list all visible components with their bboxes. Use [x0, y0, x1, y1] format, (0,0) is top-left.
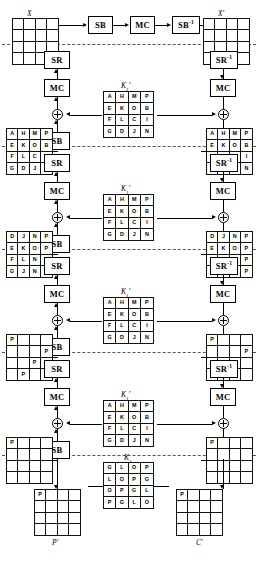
matrix-cell: O: [129, 309, 141, 320]
matrix-cell: [69, 513, 80, 524]
matrix-cell: M: [129, 298, 141, 309]
op-box-mc-L2[interactable]: MC: [44, 182, 70, 200]
state-matrix-right-4: P: [206, 437, 253, 484]
op-box-mc-R4[interactable]: MC: [210, 388, 236, 406]
matrix-cell: [41, 472, 52, 483]
matrix-cell: L: [116, 218, 128, 229]
matrix-cell: P: [207, 335, 218, 346]
arrowhead-into-xor-up-L3: [54, 326, 58, 330]
matrix-cell: N: [141, 332, 153, 343]
matrix-cell: [207, 472, 218, 483]
matrix-cell: E: [207, 140, 218, 151]
matrix-cell: [7, 472, 18, 483]
matrix-cell: D: [116, 435, 128, 446]
op-label: SR: [51, 262, 62, 271]
op-box-sb-inverse-top[interactable]: SB-1: [172, 16, 200, 34]
matrix-cell: [58, 501, 69, 512]
op-label: SB: [52, 343, 63, 352]
wire-state-l1-tap: [53, 151, 58, 152]
arrowhead-into-sr-L2: [54, 172, 58, 176]
xor-node-L2: [52, 212, 63, 223]
op-label: SB-1: [178, 20, 194, 29]
matrix-cell: E: [7, 243, 18, 254]
matrix-cell: K: [18, 140, 29, 151]
matrix-cell: N: [141, 435, 153, 446]
matrix-cell: L: [116, 424, 128, 435]
matrix-cell: [188, 501, 199, 512]
op-box-mc-L3[interactable]: MC: [44, 285, 70, 303]
op-label: MC: [216, 393, 231, 402]
wire-state-r3-tap: [201, 357, 206, 358]
matrix-cell: L: [141, 486, 153, 497]
matrix-cell: L: [18, 152, 29, 163]
op-label: SR-1: [216, 158, 232, 167]
matrix-cell: [36, 19, 47, 30]
wire-key2-to-xor-right: [157, 218, 212, 219]
xor-node-R3: [218, 315, 229, 326]
matrix-cell: [41, 461, 52, 472]
matrix-cell: [238, 30, 249, 41]
matrix-cell: M: [129, 195, 141, 206]
matrix-cell: P: [141, 298, 153, 309]
op-box-mc-top[interactable]: MC: [130, 16, 155, 34]
op-box-sr-L4[interactable]: SR: [44, 360, 70, 378]
matrix-cell: [7, 358, 18, 369]
op-label: MC: [50, 187, 65, 196]
wire-key1-to-xor-left: [70, 115, 102, 116]
matrix-cell: [41, 335, 52, 346]
op-box-mc-R2[interactable]: MC: [210, 182, 236, 200]
op-box-mc-R3[interactable]: MC: [210, 285, 236, 303]
matrix-cell: H: [116, 92, 128, 103]
matrix-cell: D: [207, 232, 218, 243]
matrix-cell: [35, 513, 46, 524]
round-key-matrix-2: AHMPEKOBFLCIGDJN: [103, 194, 154, 241]
matrix-cell: [30, 472, 41, 483]
matrix-cell: K: [116, 103, 128, 114]
matrix-cell: [207, 346, 218, 357]
arrowhead-into-xor-L4: [66, 421, 70, 425]
matrix-cell: [36, 30, 47, 41]
op-box-sr-inverse-R1[interactable]: SR-1: [210, 51, 238, 69]
matrix-cell: K: [218, 140, 229, 151]
matrix-cell: [230, 472, 241, 483]
matrix-cell: [227, 19, 238, 30]
matrix-cell: P: [241, 243, 252, 254]
wire-R3-mc-xor: [223, 303, 224, 315]
arrowhead-into-mc-L1: [54, 97, 58, 101]
op-label: MC: [216, 187, 231, 196]
arrowhead-into-xor-L3: [66, 318, 70, 322]
matrix-cell: O: [129, 463, 141, 474]
op-box-sr-L3[interactable]: SR: [44, 257, 70, 275]
op-label: SR: [51, 56, 62, 65]
xor-node-R1: [218, 109, 229, 120]
wire-key2-to-xor-left: [70, 218, 102, 219]
matrix-cell: O: [116, 474, 128, 485]
matrix-cell: N: [241, 163, 252, 174]
matrix-cell: C: [30, 152, 41, 163]
op-box-sb-top[interactable]: SB: [88, 16, 113, 34]
op-box-sr-L2[interactable]: SR: [44, 154, 70, 172]
matrix-cell: A: [104, 298, 116, 309]
matrix-cell: [227, 30, 238, 41]
matrix-cell: [24, 19, 35, 30]
wire-final-key-right: [154, 486, 169, 487]
op-box-mc-R1[interactable]: MC: [210, 79, 236, 97]
label-key-3: K1': [121, 287, 130, 298]
op-box-sr-inverse-R3[interactable]: SR-1: [210, 257, 238, 275]
op-box-sr-inverse-R2[interactable]: SR-1: [210, 154, 238, 172]
matrix-cell: [13, 53, 24, 64]
matrix-cell: P: [141, 92, 153, 103]
matrix-cell: [207, 449, 218, 460]
op-box-sr-L1[interactable]: SR: [44, 51, 70, 69]
op-box-mc-L4[interactable]: MC: [44, 388, 70, 406]
op-label: SR: [51, 159, 62, 168]
op-box-sr-inverse-R4[interactable]: SR-1: [210, 360, 238, 378]
wire-final-key-left: [88, 486, 103, 487]
matrix-cell: [24, 53, 35, 64]
matrix-cell: F: [7, 255, 18, 266]
matrix-cell: K: [116, 206, 128, 217]
matrix-cell: P: [104, 497, 116, 508]
op-box-mc-L1[interactable]: MC: [44, 79, 70, 97]
matrix-cell: [218, 335, 229, 346]
matrix-cell: B: [241, 140, 252, 151]
